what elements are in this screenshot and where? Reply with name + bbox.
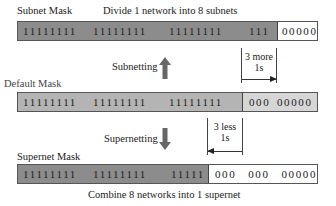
- subnet-mask-bar: 11111111 11111111 11111111 111 00000: [17, 21, 318, 41]
- bit-group: 00000: [282, 168, 318, 180]
- bit-group: 11111: [171, 168, 205, 180]
- bit-group: 11111111: [169, 25, 249, 37]
- subnet-caption: Divide 1 network into 8 subnets: [103, 5, 237, 16]
- bit-group: 000: [215, 168, 248, 180]
- subnet-mask-title: Subnet Mask: [17, 5, 72, 16]
- bit-group: 00000: [277, 96, 313, 108]
- bit-group: 111: [249, 25, 269, 37]
- default-mask-title: Default Mask: [4, 78, 61, 89]
- supernet-mask-title: Supernet Mask: [17, 151, 80, 162]
- supernet-mask-bar: 11111111 11111111 11111 000 000 00000: [17, 164, 318, 184]
- bracket-text-line2: 1s: [242, 62, 276, 73]
- default-ones-segment: 11111111 11111111 11111111: [18, 93, 242, 111]
- subnet-zeros-segment: 00000: [277, 22, 317, 40]
- bracket-text-line2: 1s: [208, 132, 242, 143]
- bracket-text-line1: 3 less: [208, 121, 242, 132]
- bit-group: 000: [248, 168, 281, 180]
- supernet-zeros-segment: 000 000 00000: [208, 165, 317, 183]
- up-arrow-icon: [159, 57, 171, 79]
- subnetting-label: Subnetting: [112, 61, 158, 72]
- supernet-ones-segment: 11111111 11111111 11111: [18, 165, 208, 183]
- supernetting-label: Supernetting: [104, 133, 158, 144]
- default-mask-bar: 11111111 11111111 11111111 000 00000: [17, 92, 318, 112]
- bit-group: 11111111: [23, 25, 93, 37]
- subnet-ones-segment: 11111111 11111111 11111111 111: [18, 22, 277, 40]
- left-arrow-icon: [208, 151, 242, 152]
- bit-group: 000: [249, 96, 277, 108]
- bit-group: 11111111: [93, 25, 169, 37]
- default-zeros-segment: 000 00000: [242, 93, 317, 111]
- three-less-ones-bracket: 3 less 1s: [207, 118, 243, 155]
- bit-group: 00000: [282, 25, 317, 37]
- bit-group: 11111111: [23, 96, 93, 108]
- bit-group: 11111111: [93, 168, 171, 180]
- down-arrow-icon: [159, 128, 171, 150]
- bit-group: 11111111: [23, 168, 93, 180]
- right-arrow-icon: [242, 79, 276, 80]
- supernet-caption: Combine 8 networks into 1 supernet: [88, 189, 241, 200]
- three-more-ones-bracket: 3 more 1s: [241, 48, 277, 83]
- bracket-text-line1: 3 more: [242, 51, 276, 62]
- bit-group: 11111111: [169, 96, 223, 108]
- bit-group: 11111111: [93, 96, 169, 108]
